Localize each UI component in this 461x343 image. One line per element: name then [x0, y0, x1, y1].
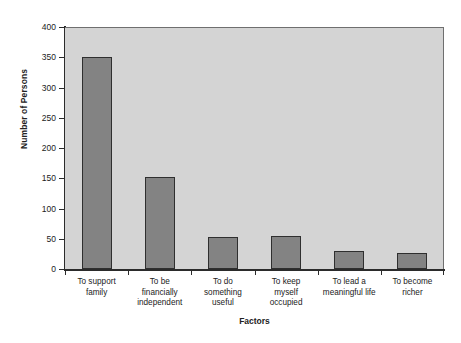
x-axis-tick-marks [65, 270, 444, 275]
bar [82, 57, 112, 269]
bar [271, 236, 301, 269]
bar [208, 237, 238, 269]
bar [145, 177, 175, 269]
x-axis-tick-label: To befinanciallyindependent [128, 277, 191, 309]
y-axis-tick-label: 100 [42, 204, 56, 214]
y-axis-tick-label: 350 [42, 52, 56, 62]
x-axis-tick-mark [65, 270, 66, 275]
y-axis-tick-label: 250 [42, 113, 56, 123]
bar [334, 251, 364, 269]
bars-layer [65, 28, 443, 269]
y-axis-tick-label: 0 [51, 264, 56, 274]
x-axis-tick-mark [381, 270, 382, 275]
y-axis-tick-label: 200 [42, 143, 56, 153]
plot-area [65, 27, 444, 269]
y-axis-tick-labels: 050100150200250300350400 [30, 27, 56, 269]
x-axis-title: Factors [65, 316, 444, 326]
x-axis-tick-mark [191, 270, 192, 275]
y-axis-tick-label: 150 [42, 173, 56, 183]
y-axis-tick-label: 400 [42, 22, 56, 32]
x-axis-tick-mark [443, 270, 444, 275]
y-axis-tick-label: 300 [42, 83, 56, 93]
x-axis-tick-label: To supportfamily [65, 277, 128, 298]
y-axis-tick-label: 50 [47, 234, 56, 244]
bar [397, 253, 427, 269]
x-axis-tick-mark [255, 270, 256, 275]
y-axis-title: Number of Persons [19, 49, 29, 169]
x-axis-tick-mark [318, 270, 319, 275]
x-axis-tick-label: To becomericher [381, 277, 444, 298]
x-axis-tick-mark [128, 270, 129, 275]
bar-chart-figure: Number of Persons 0501001502002503003504… [0, 0, 461, 343]
x-axis-tick-label: To keepmyselfoccupied [255, 277, 318, 309]
x-axis-tick-label: To lead ameaningful life [318, 277, 381, 298]
x-axis-tick-labels: To supportfamilyTo befinanciallyindepend… [65, 277, 444, 317]
x-axis-tick-label: To dosomethinguseful [191, 277, 254, 309]
